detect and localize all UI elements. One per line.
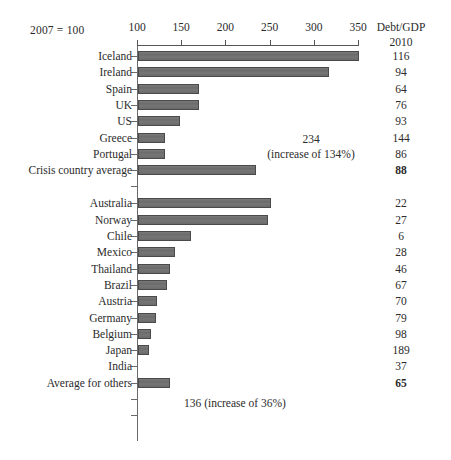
row-label: Brazil: [104, 278, 132, 292]
bar-chart: 2007 = 100 Debt/GDP 2010 100150200250300…: [0, 0, 451, 460]
debt-gdp-value: 67: [381, 278, 421, 292]
bar: [138, 67, 329, 77]
bar: [138, 198, 271, 208]
row-label: Crisis country average: [29, 163, 132, 177]
bar: [138, 264, 170, 274]
debt-gdp-value: 86: [381, 147, 421, 161]
row-label: Average for others: [47, 376, 132, 390]
row-label: Chile: [107, 229, 132, 243]
chart-row: Norway27: [0, 212, 451, 228]
chart-row: Chile6: [0, 228, 451, 244]
debt-gdp-value: 116: [381, 49, 421, 63]
chart-rows: Iceland116Ireland94Spain64UK76US93Greece…: [0, 0, 451, 460]
debt-gdp-value: 6: [381, 229, 421, 243]
debt-gdp-value: 189: [381, 343, 421, 357]
chart-row: Crisis country average88: [0, 162, 451, 178]
bar: [138, 51, 359, 61]
bar: [138, 231, 191, 241]
row-label: Iceland: [98, 49, 132, 63]
debt-gdp-value: 93: [381, 114, 421, 128]
bar: [138, 215, 268, 225]
bar: [138, 313, 156, 323]
debt-gdp-value: 27: [381, 213, 421, 227]
row-label: Ireland: [99, 65, 132, 79]
row-label: Greece: [99, 131, 132, 145]
chart-row: Japan189: [0, 342, 451, 358]
debt-gdp-value: 70: [381, 294, 421, 308]
row-label: Australia: [90, 196, 132, 210]
crisis-average-annotation: 234 (increase of 134%): [246, 132, 376, 162]
chart-row: UK76: [0, 97, 451, 113]
row-label: Portugal: [93, 147, 132, 161]
crisis-annotation-value: 234: [246, 132, 376, 147]
debt-gdp-value: 22: [381, 196, 421, 210]
debt-gdp-value: 88: [381, 163, 421, 177]
bar: [138, 116, 180, 126]
bar: [138, 378, 170, 388]
chart-row: Iceland116: [0, 48, 451, 64]
row-label: Austria: [98, 294, 132, 308]
chart-row: Austria70: [0, 293, 451, 309]
chart-row: Thailand46: [0, 261, 451, 277]
bar: [138, 149, 165, 159]
row-label: Japan: [106, 343, 132, 357]
chart-row: Brazil67: [0, 277, 451, 293]
chart-row: Australia22: [0, 195, 451, 211]
chart-row: India37: [0, 358, 451, 374]
chart-row: Germany79: [0, 310, 451, 326]
row-label: Spain: [106, 82, 132, 96]
bar: [138, 100, 199, 110]
chart-row: Portugal86: [0, 146, 451, 162]
debt-gdp-value: 144: [381, 131, 421, 145]
row-label: Germany: [89, 311, 132, 325]
row-label: India: [108, 359, 132, 373]
bar: [138, 329, 151, 339]
chart-row: Spain64: [0, 81, 451, 97]
debt-gdp-value: 28: [381, 245, 421, 259]
row-label: US: [117, 114, 132, 128]
bar: [138, 296, 157, 306]
row-label: UK: [115, 98, 132, 112]
debt-gdp-value: 94: [381, 65, 421, 79]
debt-gdp-value: 65: [381, 376, 421, 390]
chart-row: Mexico28: [0, 244, 451, 260]
row-label: Norway: [95, 213, 132, 227]
chart-row: US93: [0, 113, 451, 129]
debt-gdp-value: 98: [381, 327, 421, 341]
crisis-annotation-increase: (increase of 134%): [246, 147, 376, 162]
bar: [138, 280, 167, 290]
row-label: Mexico: [97, 245, 132, 259]
bar: [138, 133, 165, 143]
debt-gdp-value: 37: [381, 359, 421, 373]
bar: [138, 165, 256, 175]
row-label: Thailand: [91, 262, 132, 276]
bar: [138, 247, 175, 257]
debt-gdp-value: 64: [381, 82, 421, 96]
debt-gdp-value: 79: [381, 311, 421, 325]
chart-row: Belgium98: [0, 326, 451, 342]
debt-gdp-value: 76: [381, 98, 421, 112]
chart-row: Greece144: [0, 130, 451, 146]
row-label: Belgium: [92, 327, 132, 341]
debt-gdp-value: 46: [381, 262, 421, 276]
bar: [138, 345, 149, 355]
chart-row: Average for others65: [0, 375, 451, 391]
others-average-annotation: 136 (increase of 36%): [184, 396, 374, 411]
bar: [138, 84, 199, 94]
chart-row: Ireland94: [0, 64, 451, 80]
